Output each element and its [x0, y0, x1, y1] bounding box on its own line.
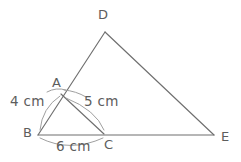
arc-a-right	[64, 90, 86, 97]
vertex-label-b: B	[23, 126, 32, 139]
vertex-label-a: A	[52, 76, 61, 89]
length-label-bc: 6 cm	[56, 139, 91, 153]
segment-group	[38, 32, 214, 135]
vertex-label-d: D	[98, 8, 108, 21]
length-label-ab: 4 cm	[10, 94, 45, 108]
geometry-figure: D A B C E 4 cm 5 cm 6 cm	[0, 0, 241, 162]
segment-de	[105, 32, 214, 135]
figure-canvas	[0, 0, 241, 162]
vertex-label-e: E	[221, 130, 229, 143]
segment-bd	[38, 32, 105, 135]
length-label-ac: 5 cm	[84, 94, 119, 108]
vertex-label-c: C	[104, 138, 113, 151]
